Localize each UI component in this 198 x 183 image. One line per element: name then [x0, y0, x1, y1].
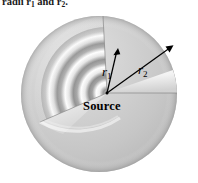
wavefront-diagram — [0, 0, 198, 183]
figure-root: radii r1 and r2. — [0, 0, 198, 183]
source-point — [106, 92, 109, 95]
r2-arrow-head — [166, 45, 174, 52]
